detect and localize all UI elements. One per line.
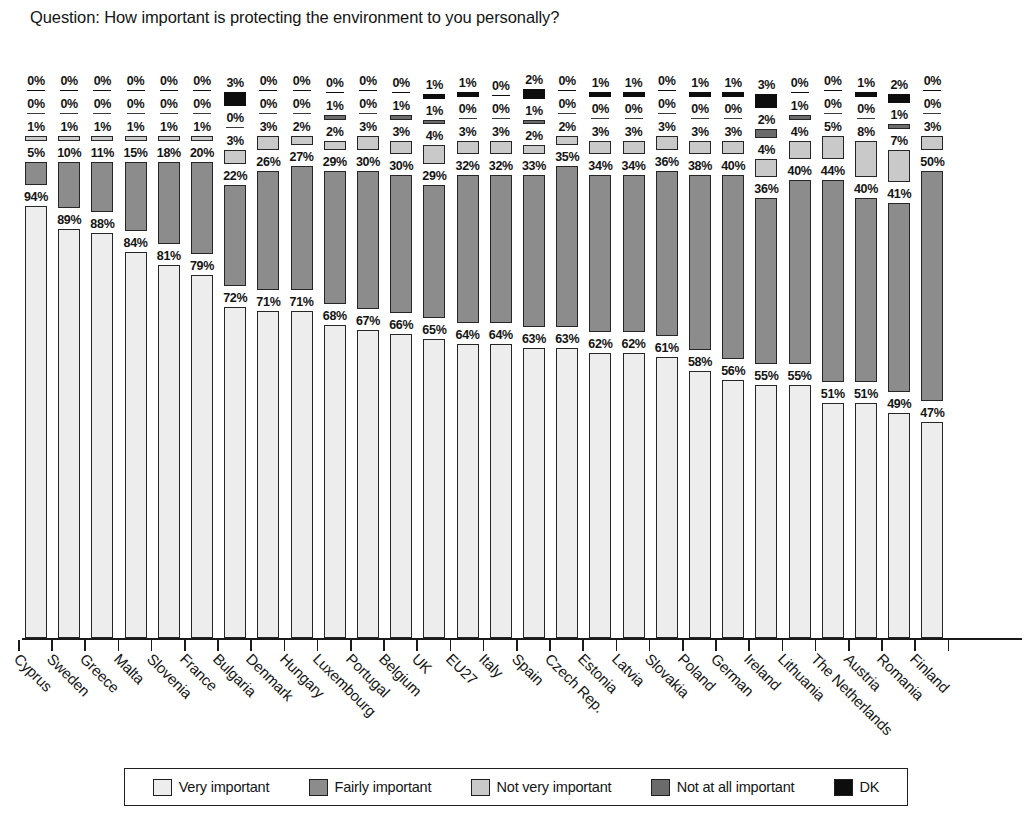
legend-label: Not very important	[497, 779, 612, 795]
country-column: 79%20%1%0%0%	[186, 0, 219, 645]
bar-segment	[423, 339, 445, 638]
x-axis-tick	[782, 640, 784, 651]
bar-segment	[492, 118, 510, 119]
country-column: 81%18%1%0%0%	[153, 0, 186, 645]
bar-value-label: 0%	[912, 74, 952, 88]
bar-segment	[923, 113, 941, 114]
legend-item: DK	[834, 779, 880, 796]
legend-item: Very important	[153, 779, 270, 796]
bar-value-label: 94%	[16, 190, 56, 204]
bar-value-label: 61%	[647, 341, 687, 355]
bar-segment	[623, 175, 645, 331]
bar-segment	[656, 171, 678, 337]
bar-segment	[91, 233, 113, 638]
bar-segment	[523, 145, 545, 154]
bar-segment	[224, 150, 246, 164]
bar-segment	[291, 311, 313, 638]
bar-value-label: 44%	[813, 164, 853, 178]
bar-segment	[789, 141, 811, 159]
bar-segment	[523, 89, 545, 98]
bar-segment	[27, 90, 45, 91]
bar-segment	[158, 136, 180, 141]
x-axis-tick	[317, 640, 319, 651]
bar-segment	[27, 113, 45, 114]
x-axis-tick	[715, 640, 717, 651]
bar-segment	[556, 348, 578, 638]
country-column: 49%41%7%1%2%	[883, 0, 916, 645]
bar-segment	[589, 92, 611, 97]
bar-segment	[824, 113, 842, 114]
bar-segment	[191, 136, 213, 141]
legend-label: DK	[860, 779, 880, 795]
bar-segment	[888, 124, 910, 129]
bar-segment	[58, 229, 80, 638]
bar-segment	[623, 92, 645, 97]
country-column: 55%40%4%1%0%	[784, 0, 817, 645]
country-column: 62%34%3%0%1%	[618, 0, 651, 645]
bar-value-label: 79%	[182, 259, 222, 273]
bar-segment	[855, 92, 877, 97]
bar-segment	[423, 145, 445, 163]
bar-segment	[93, 90, 111, 91]
bar-segment	[324, 171, 346, 304]
bar-segment	[224, 92, 246, 106]
country-column: 47%50%3%0%0%	[916, 0, 949, 645]
bar-segment	[789, 180, 811, 364]
bar-segment	[257, 311, 279, 638]
x-axis-tick	[118, 640, 120, 651]
bar-segment	[224, 307, 246, 638]
country-column: 67%30%3%0%0%	[352, 0, 385, 645]
bar-segment	[224, 185, 246, 286]
bar-segment	[722, 175, 744, 359]
bar-segment	[324, 141, 346, 150]
bar-segment	[457, 344, 479, 638]
bar-segment	[357, 136, 379, 150]
x-axis-tick	[582, 640, 584, 651]
bar-segment	[390, 334, 412, 638]
bar-segment	[722, 380, 744, 638]
legend-swatch-icon	[153, 779, 172, 796]
bar-value-label: 7%	[879, 134, 919, 148]
bar-segment	[523, 120, 545, 125]
bar-segment	[722, 92, 744, 97]
legend-swatch-icon	[651, 779, 670, 796]
bar-segment	[423, 120, 445, 125]
x-axis-tick	[948, 640, 950, 651]
bar-segment	[293, 90, 311, 91]
x-axis-category-labels: CyprusSwedenGreeceMaltaSloveniaFranceBul…	[0, 650, 1032, 760]
legend-swatch-icon	[309, 779, 328, 796]
x-axis-tick	[217, 640, 219, 651]
bar-value-label: 88%	[82, 217, 122, 231]
bar-segment	[457, 175, 479, 322]
country-column: 71%27%2%0%0%	[286, 0, 319, 645]
x-axis-category-label: Spain	[509, 650, 547, 688]
bar-segment	[293, 113, 311, 114]
legend-label: Not at all important	[677, 779, 795, 795]
country-column: 63%35%2%0%0%	[551, 0, 584, 645]
bar-segment	[689, 92, 711, 97]
x-axis-tick	[84, 640, 86, 651]
bar-segment	[93, 113, 111, 114]
legend-item: Fairly important	[309, 779, 432, 796]
bar-segment	[490, 175, 512, 322]
bar-value-label: 71%	[282, 295, 322, 309]
country-column: 72%22%3%0%3%	[219, 0, 252, 645]
bar-segment	[789, 385, 811, 638]
bar-segment	[492, 95, 510, 96]
bar-segment	[755, 385, 777, 638]
bar-segment	[822, 136, 844, 159]
x-axis-tick	[815, 640, 817, 651]
x-axis-tick	[250, 640, 252, 651]
chart-legend: Very importantFairly importantNot very i…	[124, 768, 908, 806]
country-column: 68%29%2%1%0%	[319, 0, 352, 645]
country-column: 65%29%4%1%1%	[418, 0, 451, 645]
bar-segment	[490, 344, 512, 638]
bar-segment	[888, 413, 910, 638]
bar-segment	[259, 113, 277, 114]
x-axis-tick	[881, 640, 883, 651]
bar-segment	[625, 118, 643, 119]
x-axis-tick	[483, 640, 485, 651]
country-column: 51%44%5%0%0%	[817, 0, 850, 645]
x-axis-tick	[616, 640, 618, 651]
bar-segment	[523, 175, 545, 327]
